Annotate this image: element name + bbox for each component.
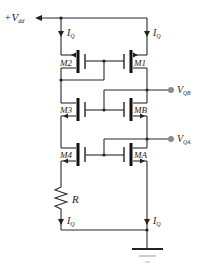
vqb-terminal[interactable] <box>168 87 174 93</box>
supply-label: +Vdd <box>4 11 25 24</box>
iq-top-left-label: IQ <box>66 27 75 39</box>
circuit-diagram: +Vdd IQ R IQ IQ <box>0 0 202 275</box>
iq-bottom-right-label: IQ <box>152 215 161 227</box>
iq-bottom-left-label: IQ <box>66 215 75 227</box>
m2-label: M2 <box>59 58 72 68</box>
m3-label: M3 <box>59 105 72 115</box>
current-arrow-icon <box>144 31 150 37</box>
m1-label: M1 <box>133 58 146 68</box>
supply-rail: +Vdd <box>4 11 147 24</box>
left-branch: IQ R IQ <box>55 18 147 230</box>
supply-arrow-icon <box>35 15 42 21</box>
vqb-label: VQB <box>177 84 191 96</box>
m4-label: M4 <box>59 150 72 160</box>
right-branch: IQ VQB VQA IQ <box>104 18 191 249</box>
current-arrow-icon <box>58 31 64 37</box>
transistor-m3: M3 <box>59 98 104 121</box>
iq-top-right-label: IQ <box>152 27 161 39</box>
resistor-icon <box>55 183 67 213</box>
transistor-m2: M2 <box>59 50 104 73</box>
vqa-label: VQA <box>177 133 191 145</box>
ground-icon <box>132 249 163 262</box>
current-arrow-icon <box>144 219 150 225</box>
transistor-m1: M1 <box>104 50 146 73</box>
ma-label: MA <box>133 150 147 160</box>
current-arrow-icon <box>58 219 64 225</box>
mb-label: MB <box>133 105 147 115</box>
resistor-label: R <box>71 193 79 205</box>
vqa-terminal[interactable] <box>168 136 174 142</box>
transistor-m4: M4 <box>59 143 104 166</box>
